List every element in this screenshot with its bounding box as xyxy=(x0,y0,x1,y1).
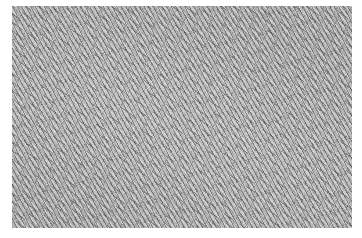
micrograph-image xyxy=(12,6,352,228)
noise-layer xyxy=(12,6,352,228)
texture-overlay xyxy=(12,6,352,228)
